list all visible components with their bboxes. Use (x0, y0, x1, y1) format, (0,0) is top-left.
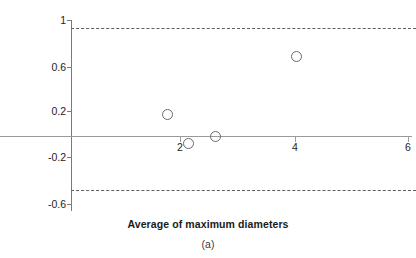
y-tick-label-1: 1 (60, 15, 66, 26)
y-tick-label-m0p6: -0.6 (48, 199, 66, 210)
x-axis-title: Average of maximum diameters (0, 218, 416, 230)
x-tick-label-4: 4 (285, 142, 305, 153)
mean-difference-line (0, 136, 412, 137)
data-point (210, 131, 221, 142)
y-tick-mark-0p6 (67, 67, 72, 68)
upper-limit-of-agreement-line (71, 28, 416, 29)
lower-limit-of-agreement-line (71, 190, 416, 191)
y-tick-mark-m0p6 (67, 204, 72, 205)
y-tick-label-0p6: 0.6 (51, 62, 66, 73)
data-point (183, 138, 194, 149)
y-tick-mark-0p2 (67, 111, 72, 112)
data-point (291, 51, 302, 62)
y-tick-label-m0p2: -0.2 (48, 152, 66, 163)
data-point (162, 109, 173, 120)
y-tick-mark-1 (67, 20, 72, 21)
x-tick-label-6: 6 (398, 142, 416, 153)
y-tick-mark-m0p2 (67, 157, 72, 158)
y-tick-label-0p2: 0.2 (51, 106, 66, 117)
bland-altman-chart: Difference of maximum diameters Live 3DT… (0, 0, 416, 258)
y-axis-line (71, 20, 72, 211)
figure-caption: (a) (0, 238, 416, 250)
